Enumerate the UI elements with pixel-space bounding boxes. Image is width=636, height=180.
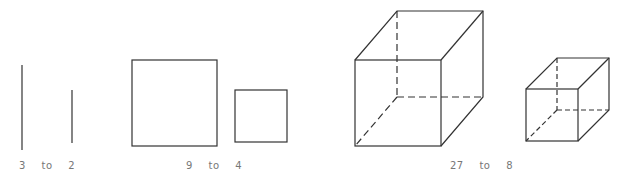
small-value: 4	[235, 160, 242, 171]
large-square	[132, 60, 217, 146]
figure-canvas	[0, 0, 636, 180]
large-cube	[355, 11, 483, 146]
ratio-label-lines: 3 to 2	[19, 160, 75, 171]
small-value: 8	[506, 160, 513, 171]
large-value: 9	[186, 160, 193, 171]
to-word: to	[479, 160, 490, 171]
small-square	[235, 90, 287, 142]
ratio-label-cubes: 27 to 8	[450, 160, 513, 171]
large-value: 3	[19, 160, 26, 171]
to-word: to	[42, 160, 53, 171]
large-value: 27	[450, 160, 464, 171]
ratio-label-squares: 9 to 4	[186, 160, 242, 171]
scaling-diagram: 3 to 2 9 to 4 27 to 8	[0, 0, 636, 180]
small-cube	[526, 58, 609, 141]
to-word: to	[209, 160, 220, 171]
small-value: 2	[68, 160, 75, 171]
